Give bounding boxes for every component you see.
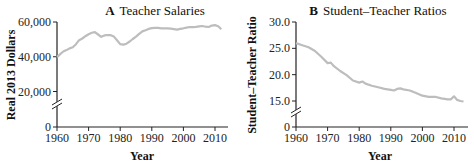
salary-line (57, 25, 221, 57)
x-tick-label: 1990 (140, 131, 164, 145)
y-tick-label: 60,000 (18, 15, 51, 29)
figure: ATeacher Salaries Real 2013 Dollars Year… (0, 0, 474, 166)
y-tick-label: 20,000 (18, 85, 51, 99)
x-tick-label: 1970 (316, 131, 340, 145)
x-axis-label-a: Year (130, 149, 155, 163)
panel-title-b: Student–Teacher Ratios (323, 3, 447, 18)
panel-letter-b: B (309, 3, 318, 18)
y-tick-label: 15.0 (269, 94, 290, 108)
x-tick-label: 1990 (379, 131, 403, 145)
x-tick-label: 1980 (347, 131, 371, 145)
y-tick-label: 20.0 (269, 68, 290, 82)
y-tick-label: 25.0 (269, 41, 290, 55)
x-tick-label: 2010 (442, 131, 466, 145)
panel-title-a: Teacher Salaries (120, 3, 205, 18)
ratio-line (296, 43, 464, 101)
y-tick-label: 40,000 (18, 50, 51, 64)
y-tick-label: 0 (284, 120, 290, 134)
x-tick-label: 1970 (77, 131, 101, 145)
y-axis-label-b: Student–Teacher Ratio (245, 16, 259, 134)
y-tick-label: 0 (45, 120, 51, 134)
x-tick-label: 2000 (410, 131, 434, 145)
axes-b: 196019701980199020002010015.020.025.030.… (269, 15, 468, 145)
chart-a-title: ATeacher Salaries (105, 3, 205, 18)
y-tick-label: 30.0 (269, 15, 290, 29)
axes-a: 196019701980199020002010020,00040,00060,… (18, 15, 228, 145)
x-axis-label-b: Year (368, 149, 393, 163)
x-tick-label: 2000 (171, 131, 195, 145)
y-axis-label-a: Real 2013 Dollars (4, 29, 18, 120)
chart-teacher-salaries: ATeacher Salaries Real 2013 Dollars Year… (4, 3, 228, 163)
chart-student-teacher-ratios: BStudent–Teacher Ratios Student–Teacher … (245, 3, 468, 163)
x-tick-label: 2010 (203, 131, 227, 145)
x-tick-label: 1980 (108, 131, 132, 145)
chart-b-title: BStudent–Teacher Ratios (309, 3, 446, 18)
panel-letter-a: A (105, 3, 115, 18)
